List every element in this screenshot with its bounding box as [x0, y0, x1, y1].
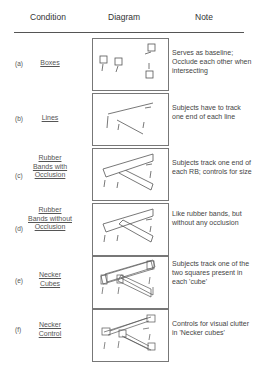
lines-diagram-icon: [92, 93, 169, 146]
condition-name: Lines: [28, 114, 72, 123]
header-diagram: Diagram: [108, 12, 140, 22]
condition-name: Necker Control: [28, 321, 72, 338]
row-label: (b): [15, 115, 23, 122]
note-text: Like rubber bands, but without any occlu…: [172, 209, 252, 227]
row-label: (c): [15, 172, 23, 179]
condition-name: Necker Cubes: [28, 271, 72, 288]
boxes-diagram-icon: [92, 38, 169, 91]
header-note: Note: [195, 12, 213, 22]
note-text: Subjects track one end of each RB; contr…: [172, 158, 252, 176]
condition-name: Boxes: [28, 59, 72, 68]
row-label: (d): [15, 225, 23, 232]
note-text: Subjects have to track one end of each l…: [172, 103, 252, 121]
note-text: Subjects track one of the two squares pr…: [172, 259, 252, 286]
note-text: Serves as baseline; Occlude each other w…: [172, 48, 252, 75]
rubber-bands-no-occlusion-diagram-icon: [92, 203, 169, 256]
condition-name: Rubber Bands without Occlusion: [28, 206, 72, 232]
note-text: Controls for visual clutter in 'Necker c…: [172, 319, 252, 337]
condition-name: Rubber Bands with Occlusion: [28, 154, 72, 180]
necker-cubes-diagram-icon: [92, 256, 169, 309]
header-condition: Condition: [30, 12, 66, 22]
necker-control-diagram-icon: [92, 309, 169, 362]
header-divider: [14, 32, 244, 33]
row-label: (f): [15, 326, 21, 333]
row-label: (e): [15, 277, 23, 284]
row-label: (a): [15, 60, 23, 67]
rubber-bands-occlusion-diagram-icon: [92, 148, 169, 201]
